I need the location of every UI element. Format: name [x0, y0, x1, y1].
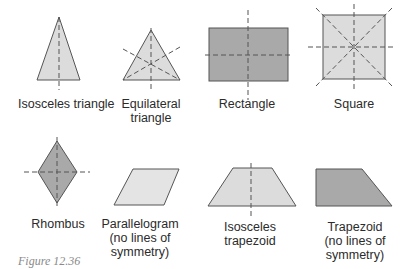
isosceles-triangle-shape — [37, 17, 80, 90]
parallelogram-label-line2: (no lines of — [100, 231, 180, 245]
rectangle-label: Rectangle — [212, 97, 282, 111]
equilateral-label-line1: Equilateral — [118, 97, 184, 111]
trapezoid-label: Trapezoid (no lines of symmetry) — [320, 220, 390, 262]
isosceles-triangle-label: Isosceles triangle — [18, 97, 108, 111]
parallelogram-label-line3: symmetry) — [100, 245, 180, 259]
trapezoid-label-line1: Trapezoid — [320, 220, 390, 234]
rhombus-shape — [24, 137, 90, 207]
square-shape — [308, 4, 395, 92]
trapezoid-label-line3: symmetry) — [320, 248, 390, 262]
isosceles-trapezoid-shape — [208, 163, 296, 216]
parallelogram-label-line1: Parallelogram — [100, 217, 180, 231]
square-label: Square — [322, 97, 386, 111]
equilateral-triangle-shape — [123, 28, 180, 92]
isosceles-trapezoid-label: Isosceles trapezoid — [220, 220, 280, 248]
rhombus-label: Rhombus — [28, 217, 88, 231]
trapezoid-label-line2: (no lines of — [320, 234, 390, 248]
figure-caption: Figure 12.36 — [18, 254, 80, 269]
rectangle-shape — [205, 10, 292, 100]
parallelogram-label: Parallelogram (no lines of symmetry) — [100, 217, 180, 259]
isosceles-trapezoid-label-line1: Isosceles — [220, 220, 280, 234]
equilateral-label-line2: triangle — [118, 111, 184, 125]
parallelogram-shape — [114, 169, 179, 205]
trapezoid-shape — [316, 169, 392, 206]
isosceles-trapezoid-label-line2: trapezoid — [220, 234, 280, 248]
equilateral-triangle-label: Equilateral triangle — [118, 97, 184, 125]
